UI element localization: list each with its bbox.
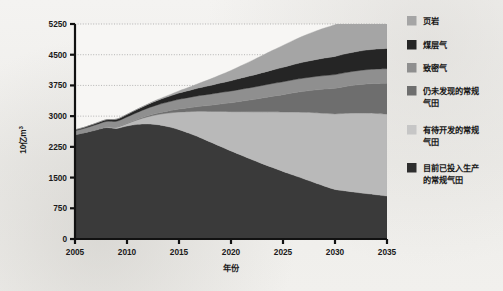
x-tick-label: 2010	[118, 247, 137, 257]
svg-text:10亿m3: 10亿m3	[18, 126, 28, 154]
y-tick-label: 4500	[49, 50, 68, 60]
legend-label[interactable]: 致密气	[423, 63, 448, 73]
legend-label[interactable]: 仍未发现的常规	[422, 86, 480, 96]
x-axis: 2005201020152020202520302035	[66, 239, 397, 257]
y-tick-label: 750	[53, 203, 67, 213]
legend-label-line2[interactable]: 的常规气田	[423, 175, 463, 185]
y-axis-title-base: 10亿m	[18, 129, 28, 154]
legend-swatch[interactable]	[407, 63, 417, 73]
legend-swatch[interactable]	[407, 86, 417, 96]
legend-label-line2[interactable]: 气田	[422, 137, 439, 147]
stacked-area-chart-figure: 0750150022503000375045005250 20052010201…	[0, 0, 503, 291]
x-axis-title: 年份	[223, 263, 240, 273]
legend-label[interactable]: 目前已投入生产	[423, 163, 479, 173]
y-tick-label: 5250	[49, 19, 68, 29]
y-axis-title: 10亿m3	[18, 126, 28, 154]
legend-swatch[interactable]	[407, 125, 417, 135]
legend-label[interactable]: 页岩	[423, 16, 439, 26]
legend-label-line2[interactable]: 气田	[422, 98, 439, 108]
y-tick-label: 2250	[49, 142, 68, 152]
chart-svg: 0750150022503000375045005250 20052010201…	[0, 0, 503, 291]
x-tick-label: 2020	[222, 247, 241, 257]
legend-label[interactable]: 有待开发的常规	[423, 125, 480, 135]
x-tick-label: 2025	[274, 247, 293, 257]
y-tick-label: 3000	[49, 111, 68, 121]
y-tick-label: 0	[62, 234, 67, 244]
legend-label[interactable]: 煤层气	[423, 40, 448, 50]
x-tick-label: 2015	[170, 247, 189, 257]
x-tick-label: 2005	[66, 247, 85, 257]
y-tick-label: 3750	[49, 80, 68, 90]
legend-swatch[interactable]	[407, 16, 417, 26]
x-tick-label: 2035	[378, 247, 397, 257]
x-tick-label: 2030	[326, 247, 345, 257]
y-axis: 0750150022503000375045005250	[49, 19, 75, 244]
y-axis-title-superscript: 3	[18, 126, 24, 129]
y-tick-label: 1500	[49, 173, 68, 183]
legend-swatch[interactable]	[407, 40, 417, 50]
chart-legend: 页岩煤层气致密气仍未发现的常规气田有待开发的常规气田目前已投入生产的常规气田	[407, 16, 480, 185]
legend-swatch[interactable]	[407, 163, 417, 173]
